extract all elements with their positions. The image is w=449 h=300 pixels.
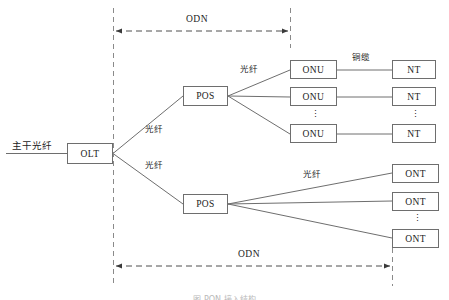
link-pos-lower-to-ont-2 [228,201,392,204]
node-pos-upper[interactable]: POS [183,86,228,106]
trunk-fiber-label: 主干光纤 [12,138,52,152]
node-olt[interactable]: OLT [67,143,113,164]
edge-label-pos-upper-to-onu: 光纤 [240,62,258,74]
edge-label-olt-to-pos-lower: 光纤 [145,158,163,170]
edge-label-pos-lower-to-ont: 光纤 [303,167,321,179]
node-ont-2[interactable]: ONT [392,192,439,211]
odn-bottom-label: ODN [238,249,260,259]
link-pos-upper-to-onu-2 [228,96,290,97]
node-ont-3[interactable]: ONT [392,229,439,248]
onu-column-ellipsis: ⋮ [311,110,320,119]
node-onu-1[interactable]: ONU [290,60,337,79]
edge-label-olt-to-pos-upper: 光纤 [145,122,163,134]
ont-column-ellipsis: ⋮ [413,214,422,223]
link-pos-upper-to-onu-3 [228,96,290,134]
node-nt-2[interactable]: NT [392,87,436,106]
link-pos-lower-to-ont-3 [228,204,392,238]
node-onu-3[interactable]: ONU [290,124,337,143]
node-nt-1[interactable]: NT [392,60,436,79]
figure-caption: 图 PON 接入结构 [0,293,449,300]
odn-top-label: ODN [186,14,208,24]
link-pos-upper-to-onu-1 [228,70,290,96]
edge-label-onu-to-nt: 铜缆 [352,50,370,62]
pon-architecture-diagram: 主干光纤 ODN ODN OLT POS POS ONU ONU ONU ⋮ N… [0,0,449,300]
node-onu-2[interactable]: ONU [290,87,337,106]
node-ont-1[interactable]: ONT [392,164,439,183]
node-nt-3[interactable]: NT [392,124,436,143]
node-pos-lower[interactable]: POS [183,194,228,214]
nt-column-ellipsis: ⋮ [411,110,420,119]
